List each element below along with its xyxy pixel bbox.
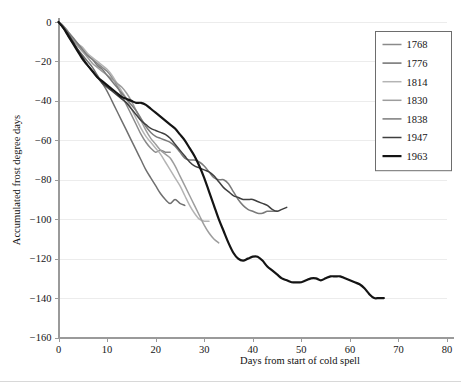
y-tick-label: −20 bbox=[35, 56, 51, 67]
legend-label-1838[interactable]: 1838 bbox=[407, 114, 428, 125]
x-tick-label: 50 bbox=[296, 344, 307, 355]
x-axis-title: Days from start of cold spell bbox=[240, 355, 360, 366]
legend-label-1963[interactable]: 1963 bbox=[407, 151, 428, 162]
series-line-1947 bbox=[59, 22, 287, 211]
legend-label-1830[interactable]: 1830 bbox=[407, 95, 428, 106]
series-line-1963 bbox=[59, 22, 384, 298]
data-series-group bbox=[59, 22, 384, 298]
y-tick-label: −140 bbox=[30, 293, 52, 304]
series-line-1814 bbox=[59, 22, 210, 221]
y-tick-label: 0 bbox=[46, 17, 51, 28]
legend-label-1947[interactable]: 1947 bbox=[407, 132, 428, 143]
y-axis-tick-labels: 0−20−40−60−80−100−120−140−160 bbox=[30, 17, 52, 344]
y-tick-label: −40 bbox=[35, 95, 51, 106]
legend-label-1776[interactable]: 1776 bbox=[407, 58, 428, 69]
legend-label-1768[interactable]: 1768 bbox=[407, 39, 428, 50]
x-tick-label: 20 bbox=[150, 344, 161, 355]
legend-label-1814[interactable]: 1814 bbox=[407, 77, 429, 88]
x-tick-label: 60 bbox=[345, 344, 356, 355]
chart-figure: 0−20−40−60−80−100−120−140−160 0102030405… bbox=[0, 0, 461, 389]
x-axis-tick-labels: 01020304050607080 bbox=[56, 344, 452, 355]
x-tick-label: 80 bbox=[442, 344, 453, 355]
series-line-1838 bbox=[59, 22, 278, 214]
x-tick-label: 0 bbox=[56, 344, 61, 355]
y-tick-label: −80 bbox=[35, 174, 51, 185]
y-tick-label: −160 bbox=[30, 332, 52, 343]
x-tick-label: 10 bbox=[102, 344, 113, 355]
x-tick-label: 70 bbox=[393, 344, 404, 355]
y-tick-label: −120 bbox=[30, 253, 52, 264]
x-tick-label: 40 bbox=[248, 344, 259, 355]
x-tick-label: 30 bbox=[199, 344, 210, 355]
y-axis-title: Accumulated frost degree days bbox=[11, 115, 22, 245]
y-tick-label: −60 bbox=[35, 135, 51, 146]
chart-legend[interactable]: 1768177618141830183819471963 bbox=[376, 32, 452, 171]
y-tick-label: −100 bbox=[30, 214, 52, 225]
frost-degree-days-line-chart: 0−20−40−60−80−100−120−140−160 0102030405… bbox=[0, 0, 461, 389]
